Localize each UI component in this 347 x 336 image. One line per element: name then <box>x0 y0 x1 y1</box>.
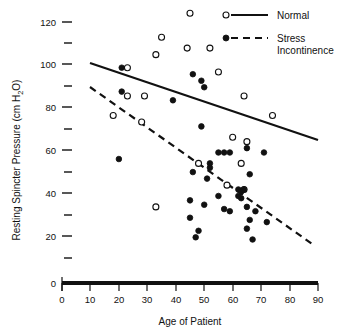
data-point-stress <box>244 226 250 232</box>
legend: Normal Stress Incontinence <box>223 10 334 56</box>
y-tick-label-0: 0 <box>51 278 56 289</box>
chart-figure: 120 100 80 60 40 20 0 0 10 20 30 40 50 6 <box>0 0 347 336</box>
data-point-normal <box>238 160 244 166</box>
legend-label-stress-line1: Stress <box>277 33 305 44</box>
data-point-stress <box>190 169 196 175</box>
data-point-stress <box>201 202 207 208</box>
data-point-stress <box>193 235 199 241</box>
data-point-normal <box>139 119 145 125</box>
data-point-normal <box>184 45 190 51</box>
data-point-stress <box>187 198 193 204</box>
y-axis-title-main: Resting Spincter Pressure (cm H <box>11 95 22 241</box>
y-tick-label-120: 120 <box>40 17 56 28</box>
x-tick-label-80: 80 <box>285 294 296 305</box>
data-point-normal <box>244 139 250 145</box>
y-axis-title-tail: O) <box>11 80 22 91</box>
data-point-stress <box>244 145 250 151</box>
x-tick-label-20: 20 <box>114 294 125 305</box>
data-point-stress <box>119 65 125 71</box>
data-point-normal <box>153 52 159 58</box>
data-point-normal <box>224 182 230 188</box>
y-tick-label-20: 20 <box>45 231 56 242</box>
data-point-stress <box>116 156 122 162</box>
data-point-stress <box>221 206 227 212</box>
data-point-stress <box>261 150 267 156</box>
data-point-stress <box>207 165 213 171</box>
data-point-normal <box>215 69 221 75</box>
data-point-stress <box>170 98 176 104</box>
y-tick-label-40: 40 <box>45 188 56 199</box>
data-point-normal <box>207 45 213 51</box>
data-point-normal <box>269 113 275 119</box>
data-point-stress <box>204 176 210 182</box>
legend-marker-normal-icon <box>223 12 229 18</box>
data-point-normal <box>110 113 116 119</box>
data-point-stress <box>196 228 202 234</box>
legend-label-stress-line2: Incontinence <box>277 45 334 56</box>
data-point-stress <box>119 89 125 95</box>
y-tick-label-80: 80 <box>45 102 56 113</box>
data-point-normal <box>187 10 193 16</box>
y-tick-label-100: 100 <box>40 59 56 70</box>
x-tick-label-0: 0 <box>59 294 64 305</box>
data-point-normal <box>153 204 159 210</box>
x-tick-label-60: 60 <box>228 294 239 305</box>
x-tick-label-50: 50 <box>199 294 210 305</box>
data-point-stress <box>244 204 250 210</box>
x-axis-title: Age of Patient <box>159 316 222 327</box>
x-tick-label-40: 40 <box>171 294 182 305</box>
data-point-normal <box>141 93 147 99</box>
data-point-stress <box>199 124 205 130</box>
regression-line-stress <box>90 87 315 246</box>
y-axis-title: Resting Spincter Pressure (cm H2O) <box>11 80 25 241</box>
x-tick-label-30: 30 <box>142 294 153 305</box>
data-point-normal <box>124 65 130 71</box>
data-point-stress <box>264 219 270 225</box>
data-point-normal <box>124 93 130 99</box>
data-point-stress <box>216 193 222 199</box>
y-tick-label-60: 60 <box>45 145 56 156</box>
data-point-stress <box>190 71 196 77</box>
data-point-stress <box>247 217 253 223</box>
data-points-layer <box>110 10 275 242</box>
data-point-stress <box>241 187 247 193</box>
y-axis-ticks <box>62 22 72 258</box>
data-point-stress <box>227 150 233 156</box>
x-tick-label-70: 70 <box>256 294 267 305</box>
data-point-normal <box>230 134 236 140</box>
data-point-normal <box>241 93 247 99</box>
scatter-plot: 120 100 80 60 40 20 0 0 10 20 30 40 50 6 <box>0 0 347 336</box>
data-point-stress <box>201 84 207 90</box>
data-point-stress <box>238 195 244 201</box>
regression-line-normal <box>90 63 318 140</box>
data-point-stress <box>216 150 222 156</box>
data-point-stress <box>250 237 256 243</box>
data-point-stress <box>221 150 227 156</box>
x-tick-label-90: 90 <box>313 294 324 305</box>
legend-label-normal: Normal <box>277 10 309 21</box>
data-point-stress <box>227 208 233 214</box>
data-point-normal <box>159 34 165 40</box>
data-point-stress <box>187 215 193 221</box>
legend-marker-stress-icon <box>223 35 229 41</box>
data-point-stress <box>253 208 259 214</box>
data-point-stress <box>199 78 205 84</box>
data-point-stress <box>247 171 253 177</box>
x-tick-label-10: 10 <box>85 294 96 305</box>
data-point-normal <box>196 160 202 166</box>
